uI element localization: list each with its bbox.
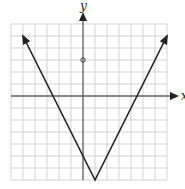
grid [11, 24, 167, 180]
x-axis-label: x [181, 89, 185, 103]
y-axis-label: y [79, 0, 87, 13]
y-axis-arrow [79, 12, 87, 21]
chart-svg: x y [0, 0, 185, 189]
chart: x y [0, 0, 185, 189]
x-axis-arrow [170, 92, 179, 100]
